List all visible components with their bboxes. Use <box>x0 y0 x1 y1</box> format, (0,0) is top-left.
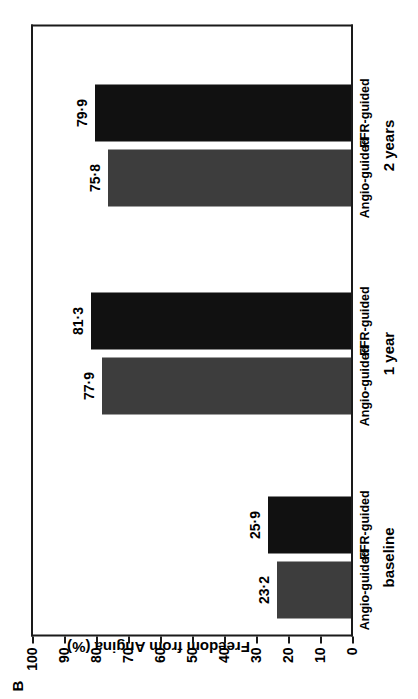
group-label-1-year: 1 year <box>380 331 397 374</box>
rotated-figure-container: B Freedom from Angina (%) 10090807060504… <box>0 0 418 699</box>
y-axis-tick-label: 40 <box>216 647 232 663</box>
series-label-ffr-guided: FFR-guided <box>358 490 372 559</box>
y-axis-tick <box>224 636 226 643</box>
bar-chart-figure: B Freedom from Angina (%) 10090807060504… <box>0 0 418 699</box>
series-label-ffr-guided: FFR-guided <box>358 286 372 355</box>
y-axis-tick <box>288 636 290 643</box>
group-label-baseline: baseline <box>380 527 397 587</box>
bar-baseline-angio-guided: 23·2 <box>277 561 351 618</box>
y-axis-tick <box>192 636 194 643</box>
y-axis-tick-label: 20 <box>280 647 296 663</box>
y-axis-tick-label: 30 <box>248 647 264 663</box>
series-label-angio-guided: Angio-guided <box>358 549 372 630</box>
bar-1-year-angio-guided: 77·9 <box>102 357 351 414</box>
y-axis-tick <box>96 636 98 643</box>
y-axis-tick <box>64 636 66 643</box>
plot-area: 1009080706050403020100 23·2Angio-guided2… <box>31 24 353 636</box>
bar-1-year-ffr-guided: 81·3 <box>91 292 351 349</box>
y-axis-tick-label: 60 <box>152 647 168 663</box>
panel-letter: B <box>9 680 26 691</box>
y-axis-tick <box>32 636 34 643</box>
bar-2-years-angio-guided: 75·8 <box>108 149 351 206</box>
axis-line-baseline <box>351 24 353 636</box>
y-axis-tick <box>352 636 354 643</box>
group-label-2-years: 2 years <box>380 119 397 171</box>
y-axis-tick-label: 100 <box>24 647 40 670</box>
y-axis-tick <box>128 636 130 643</box>
bar-value-label: 75·8 <box>87 163 103 191</box>
y-axis-tick-label: 50 <box>184 647 200 663</box>
y-axis-tick <box>320 636 322 643</box>
bar-2-years-ffr-guided: 79·9 <box>95 84 351 141</box>
bar-value-label: 23·2 <box>256 575 272 603</box>
axis-line-right <box>31 24 353 26</box>
y-axis-tick-label: 70 <box>120 647 136 663</box>
y-axis-tick-label: 0 <box>344 647 360 655</box>
bar-value-label: 81·3 <box>70 306 86 334</box>
y-axis-tick-label: 80 <box>88 647 104 663</box>
bar-value-label: 79·9 <box>74 98 90 126</box>
y-axis-tick-label: 90 <box>56 647 72 663</box>
y-axis-tick <box>160 636 162 643</box>
series-label-angio-guided: Angio-guided <box>358 137 372 218</box>
series-label-angio-guided: Angio-guided <box>358 345 372 426</box>
series-label-ffr-guided: FFR-guided <box>358 78 372 147</box>
bar-value-label: 77·9 <box>81 371 97 399</box>
bar-baseline-ffr-guided: 25·9 <box>268 496 351 553</box>
y-axis-tick <box>256 636 258 643</box>
y-axis-tick-label: 10 <box>312 647 328 663</box>
bar-value-label: 25·9 <box>247 510 263 538</box>
axis-line-top <box>31 24 33 636</box>
